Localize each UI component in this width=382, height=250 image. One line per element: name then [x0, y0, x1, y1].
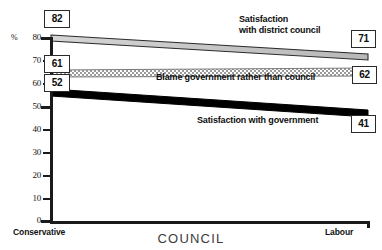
series-label-district-council: Satisfaction with district council [239, 14, 320, 36]
value-box-government-start: 52 [44, 74, 70, 92]
x-axis-right-endcap [367, 221, 370, 228]
y-tick-label-20: 20 [19, 170, 41, 180]
y-tick-40 [43, 129, 50, 131]
band-satisfaction-government [51, 89, 368, 117]
y-tick-20 [43, 175, 50, 177]
series-label-district-council-line1: Satisfaction [239, 14, 320, 25]
chart-canvas: 80 70 60 50 40 30 20 10 0 % Conservative… [0, 0, 382, 250]
value-box-council-end: 71 [351, 30, 376, 48]
y-tick-label-10: 10 [19, 193, 41, 203]
x-axis-line [50, 221, 370, 224]
y-tick-label-70: 70 [19, 55, 41, 65]
y-tick-label-0: 0 [19, 215, 41, 225]
x-axis-title: COUNCIL [0, 231, 382, 246]
value-box-blame-start: 61 [44, 55, 70, 73]
y-tick-label-30: 30 [19, 147, 41, 157]
y-tick-label-80: 80 [19, 32, 41, 42]
series-bands [0, 0, 382, 250]
series-label-district-council-line2: with district council [239, 25, 320, 36]
y-tick-label-40: 40 [19, 124, 41, 134]
y-tick-80 [41, 37, 50, 40]
value-box-government-end: 41 [351, 115, 376, 133]
y-tick-0 [41, 220, 50, 223]
band-satisfaction-district-council [51, 35, 368, 60]
y-axis-unit-label: % [11, 33, 18, 42]
series-label-blame-government: Blame government rather than council [156, 72, 315, 83]
y-tick-label-60: 60 [19, 78, 41, 88]
y-tick-label-50: 50 [19, 101, 41, 111]
y-tick-30 [43, 152, 50, 154]
y-tick-50 [41, 106, 50, 109]
value-box-blame-end: 62 [352, 66, 377, 84]
y-tick-10 [43, 198, 50, 200]
series-label-satisfaction-government: Satisfaction with government [197, 115, 318, 126]
value-box-council-start: 82 [44, 10, 70, 28]
